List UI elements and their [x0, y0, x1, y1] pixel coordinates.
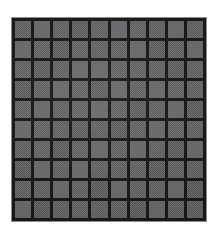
- grid-cell: [130, 181, 146, 198]
- grid-cell: [130, 141, 146, 158]
- grid-cell: [15, 81, 31, 98]
- grid-cell: [15, 121, 31, 138]
- grid-cell: [53, 41, 69, 58]
- grid-cell: [130, 81, 146, 98]
- grid-cell: [15, 181, 31, 198]
- grid-cell: [130, 21, 146, 38]
- grid-cell: [91, 21, 107, 38]
- grid-cell: [72, 121, 88, 138]
- grid-cell: [91, 161, 107, 178]
- grid-cell: [111, 141, 127, 158]
- grid-cell: [91, 121, 107, 138]
- grid-cell: [53, 101, 69, 118]
- grid-cell: [15, 101, 31, 118]
- grid-cell: [15, 161, 31, 178]
- grid-cell: [111, 21, 127, 38]
- grid-cell: [187, 181, 203, 198]
- grid-cell: [187, 201, 203, 218]
- grid-cell: [130, 161, 146, 178]
- grid-cell: [34, 181, 50, 198]
- grid-cell: [34, 41, 50, 58]
- grid-cell: [149, 161, 165, 178]
- grid-cell: [34, 161, 50, 178]
- grid-cell: [72, 141, 88, 158]
- grid-cell: [15, 41, 31, 58]
- grid-cell: [34, 141, 50, 158]
- grid-cell: [187, 121, 203, 138]
- grid-cell: [15, 141, 31, 158]
- grid-cell: [149, 201, 165, 218]
- grid-cell: [187, 141, 203, 158]
- grid-cell: [34, 101, 50, 118]
- grid-cell: [72, 201, 88, 218]
- grid-cell: [168, 201, 184, 218]
- grid-cell: [149, 101, 165, 118]
- grid-cell: [91, 201, 107, 218]
- grid-cell: [111, 121, 127, 138]
- grid-cell: [34, 121, 50, 138]
- grid-cell: [53, 61, 69, 78]
- grid-cell: [111, 41, 127, 58]
- grid-cell: [72, 81, 88, 98]
- grid-cell: [168, 161, 184, 178]
- grid-cell: [130, 101, 146, 118]
- grid-cell: [187, 61, 203, 78]
- grid-cell: [168, 141, 184, 158]
- grid-cell: [72, 181, 88, 198]
- grid-cell: [15, 201, 31, 218]
- grid-cell: [34, 81, 50, 98]
- grid-cell: [91, 81, 107, 98]
- grid-cell: [168, 121, 184, 138]
- grid-cell: [34, 21, 50, 38]
- grid-cell: [168, 61, 184, 78]
- grid-cell: [187, 41, 203, 58]
- grid-cell: [91, 181, 107, 198]
- grid-cell: [187, 161, 203, 178]
- grid-cell: [72, 61, 88, 78]
- grid-cell: [53, 201, 69, 218]
- grid-cell: [34, 201, 50, 218]
- grid-cell: [15, 21, 31, 38]
- grid-cell: [34, 61, 50, 78]
- grid-cell: [53, 161, 69, 178]
- grid-cell: [91, 61, 107, 78]
- grid-cell: [149, 181, 165, 198]
- grid-cell: [149, 121, 165, 138]
- grid-cell: [53, 141, 69, 158]
- grid-cell: [111, 81, 127, 98]
- grid-cell: [72, 21, 88, 38]
- grid-cell: [149, 61, 165, 78]
- grid-cell: [15, 61, 31, 78]
- grid-cell: [72, 101, 88, 118]
- grid-cell: [149, 81, 165, 98]
- grid-cell: [187, 101, 203, 118]
- grid-cell: [72, 161, 88, 178]
- grid-cell: [53, 81, 69, 98]
- grid-cell: [168, 101, 184, 118]
- grid-cell: [53, 181, 69, 198]
- tile-grid: [12, 18, 206, 221]
- grid-cell: [130, 41, 146, 58]
- grid-cell: [187, 21, 203, 38]
- grid-cell: [53, 121, 69, 138]
- grid-cell: [187, 81, 203, 98]
- grid-cell: [168, 41, 184, 58]
- tiled-grid-panel: [11, 17, 207, 222]
- grid-cell: [168, 21, 184, 38]
- grid-cell: [149, 41, 165, 58]
- grid-cell: [130, 201, 146, 218]
- grid-cell: [149, 141, 165, 158]
- grid-cell: [111, 101, 127, 118]
- grid-cell: [168, 181, 184, 198]
- grid-cell: [91, 41, 107, 58]
- grid-cell: [130, 121, 146, 138]
- grid-cell: [168, 81, 184, 98]
- grid-cell: [149, 21, 165, 38]
- grid-cell: [130, 61, 146, 78]
- grid-cell: [91, 101, 107, 118]
- grid-cell: [111, 201, 127, 218]
- image-canvas: [0, 0, 220, 236]
- grid-cell: [91, 141, 107, 158]
- grid-cell: [111, 61, 127, 78]
- grid-cell: [111, 181, 127, 198]
